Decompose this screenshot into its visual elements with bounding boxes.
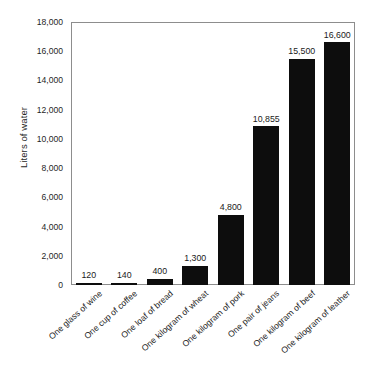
y-axis-tick-label: 14,000 [37,76,63,85]
bar-group: 1,300 [182,22,208,285]
y-axis-tick-label: 12,000 [37,105,63,114]
bar-group: 16,600 [324,22,350,285]
bar-value-label: 15,500 [288,47,315,56]
bar-group: 120 [76,22,102,285]
y-axis-tick-label: 10,000 [37,135,63,144]
y-axis-tick-label: 16,000 [37,47,63,56]
bar-group: 4,800 [218,22,244,285]
x-axis-category-labels: One glass of wineOne cup of coffeeOne lo… [71,285,355,378]
bar-value-label: 120 [81,271,96,280]
bar-value-label: 16,600 [324,31,351,40]
bar-chart: Liters of water 02,0004,0006,0008,00010,… [0,0,377,378]
bar [324,42,350,285]
y-axis-tick-label: 18,000 [37,18,63,27]
x-axis-category-label-text: One kilogram of leather [280,289,352,355]
y-axis-tick-label: 8,000 [41,164,63,173]
x-axis-category-label-text: One kilogram of wheat [140,289,210,353]
x-axis-category-label-text: One kilogram of beef [251,289,316,349]
x-axis-category-label-text: One kilogram of pork [180,289,245,349]
y-axis-tick-labels: 02,0004,0006,0008,00010,00012,00014,0001… [0,22,68,285]
bar-value-label: 10,855 [253,115,280,124]
y-axis-tick-label: 2,000 [41,251,63,260]
y-axis-tick-label: 0 [58,281,63,290]
bar-value-label: 4,800 [220,203,242,212]
y-axis-tick-label: 6,000 [41,193,63,202]
bar-group: 140 [111,22,137,285]
bars-layer: 1201404001,3004,80010,85515,50016,600 [71,22,355,285]
y-axis-tick-label: 4,000 [41,222,63,231]
